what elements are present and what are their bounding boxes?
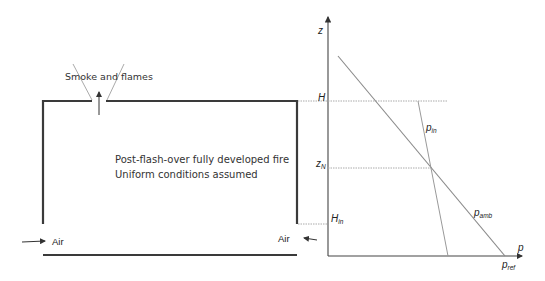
description-line1: Post-flash-over fully developed fire xyxy=(115,154,289,165)
flame-line-left xyxy=(73,64,92,100)
smoke-flames-label: Smoke and flames xyxy=(65,71,153,82)
fire-compartment-diagram: Smoke and flames Post-flash-over fully d… xyxy=(0,0,545,281)
description-line2: Uniform conditions assumed xyxy=(115,169,258,180)
p-in-label: pin xyxy=(425,122,437,134)
p-axis-label: p xyxy=(517,242,524,253)
air-left-arrow-icon xyxy=(22,241,45,242)
compartment-left-wall xyxy=(43,101,92,224)
p-amb-line xyxy=(338,56,505,256)
hin-label: Hin xyxy=(331,213,344,225)
p-ref-label: pref xyxy=(501,259,516,271)
z-axis-label: z xyxy=(317,25,323,36)
p-amb-label: pamb xyxy=(473,207,493,219)
air-right-arrow-icon xyxy=(304,238,317,240)
pressure-plot: z p H zN Hin pin pamb pref xyxy=(298,17,524,271)
p-in-line xyxy=(418,101,448,256)
smoke-flames-vent: Smoke and flames xyxy=(65,64,153,115)
air-right-label: Air xyxy=(278,233,290,244)
flame-line-right xyxy=(107,64,124,100)
air-left-label: Air xyxy=(52,236,64,247)
zn-label: zN xyxy=(315,158,326,170)
h-label: H xyxy=(318,92,326,103)
